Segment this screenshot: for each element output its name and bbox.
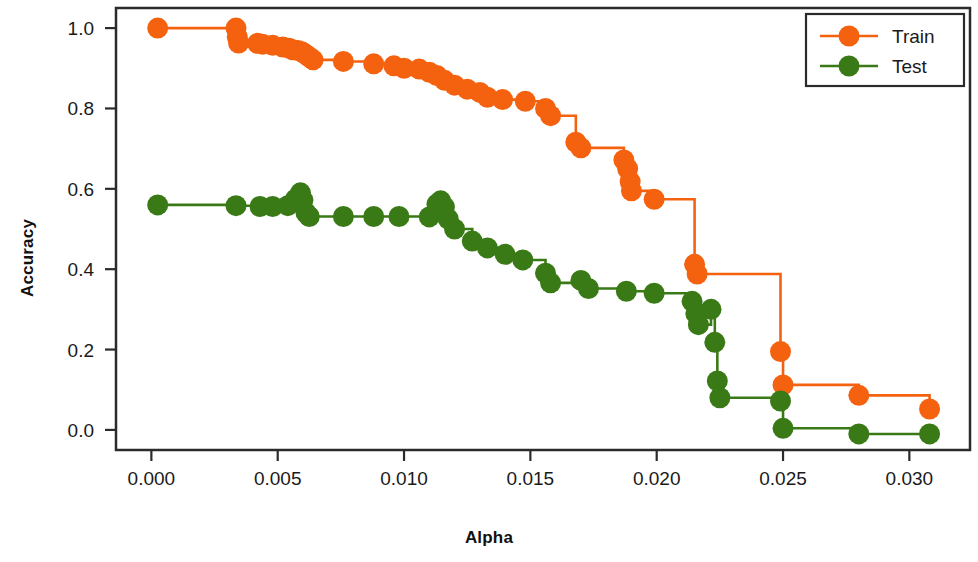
data-point-marker — [492, 89, 513, 110]
y-tick-label: 1.0 — [68, 18, 94, 39]
data-point-marker — [919, 399, 940, 420]
x-tick-label: 0.020 — [633, 468, 681, 489]
legend-marker-swatch — [839, 26, 860, 47]
y-axis-ticks: 0.00.20.40.60.81.0 — [68, 18, 116, 441]
data-point-marker — [540, 105, 561, 126]
data-point-marker — [515, 91, 536, 112]
accuracy-vs-alpha-plot: 0.0000.0050.0100.0150.0200.0250.030 0.00… — [0, 0, 978, 562]
data-point-marker — [512, 249, 533, 270]
data-point-marker — [226, 195, 247, 216]
data-point-marker — [444, 219, 465, 240]
data-point-marker — [363, 206, 384, 227]
data-point-marker — [621, 180, 642, 201]
data-point-marker — [363, 53, 384, 74]
data-point-marker — [299, 206, 320, 227]
legend-box — [806, 14, 964, 86]
y-axis-title: Accuracy — [18, 168, 38, 348]
data-point-marker — [578, 278, 599, 299]
legend-label: Test — [892, 56, 928, 77]
y-tick-label: 0.6 — [68, 179, 94, 200]
data-point-marker — [388, 206, 409, 227]
data-point-marker — [848, 423, 869, 444]
x-tick-label: 0.005 — [254, 468, 302, 489]
legend-label: Train — [892, 26, 935, 47]
y-tick-label: 0.4 — [68, 259, 95, 280]
x-axis-ticks: 0.0000.0050.0100.0150.0200.0250.030 — [128, 450, 934, 489]
data-point-marker — [147, 194, 168, 215]
data-point-marker — [770, 390, 791, 411]
data-point-marker — [570, 137, 591, 158]
data-point-marker — [147, 18, 168, 39]
x-axis-title: Alpha — [0, 528, 978, 548]
y-tick-label: 0.0 — [68, 420, 94, 441]
data-point-marker — [687, 264, 708, 285]
x-tick-label: 0.000 — [128, 468, 176, 489]
data-point-marker — [333, 51, 354, 72]
data-point-marker — [701, 299, 722, 320]
data-point-marker — [228, 32, 249, 53]
data-point-marker — [770, 341, 791, 362]
data-point-marker — [644, 283, 665, 304]
legend-marker-swatch — [839, 56, 860, 77]
y-tick-label: 0.2 — [68, 340, 94, 361]
chart-figure: 0.0000.0050.0100.0150.0200.0250.030 0.00… — [0, 0, 978, 562]
data-point-marker — [303, 49, 324, 70]
data-point-marker — [333, 206, 354, 227]
data-point-marker — [848, 385, 869, 406]
data-point-marker — [709, 387, 730, 408]
x-tick-label: 0.030 — [886, 468, 934, 489]
y-tick-label: 0.8 — [68, 98, 94, 119]
data-point-marker — [773, 418, 794, 439]
data-point-marker — [704, 332, 725, 353]
data-point-marker — [644, 189, 665, 210]
data-point-marker — [540, 272, 561, 293]
x-tick-label: 0.010 — [380, 468, 428, 489]
data-point-marker — [616, 281, 637, 302]
x-tick-label: 0.015 — [507, 468, 555, 489]
legend: TrainTest — [806, 14, 964, 86]
data-point-marker — [919, 423, 940, 444]
x-tick-label: 0.025 — [759, 468, 807, 489]
